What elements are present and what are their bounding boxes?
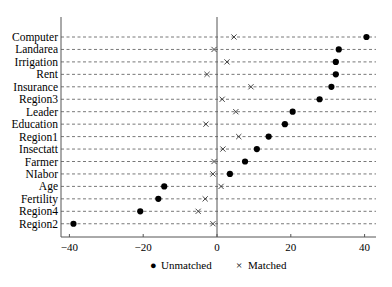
matched-point xyxy=(203,196,208,201)
unmatched-point xyxy=(333,59,339,65)
category-label: Leader xyxy=(26,106,58,118)
category-label: Insectatt xyxy=(19,143,59,155)
category-label: Farmer xyxy=(25,156,58,168)
unmatched-point xyxy=(161,183,167,189)
unmatched-point xyxy=(227,171,233,177)
category-label: Age xyxy=(39,180,58,193)
unmatched-point xyxy=(282,121,288,127)
unmatched-point xyxy=(333,71,339,77)
matched-legend-symbol: × xyxy=(236,259,242,271)
category-label: NIabor xyxy=(25,168,58,180)
unmatched-point xyxy=(336,46,342,52)
unmatched-point xyxy=(316,96,322,102)
unmatched-point xyxy=(328,84,334,90)
category-label: Fertility xyxy=(21,193,58,206)
unmatched-point xyxy=(137,208,143,214)
unmatched-legend-label: Unmatched xyxy=(161,259,212,271)
x-tick-label: 20 xyxy=(285,241,297,253)
unmatched-point xyxy=(70,221,76,227)
matched-point xyxy=(236,134,241,139)
category-label: Region1 xyxy=(19,131,58,144)
unmatched-point xyxy=(254,146,260,152)
x-tick-label: −40 xyxy=(61,241,79,253)
category-label: Insurance xyxy=(13,81,58,93)
matched-legend-label: Matched xyxy=(248,259,287,271)
x-tick-label: −20 xyxy=(135,241,153,253)
unmatched-point xyxy=(155,196,161,202)
legend: ● Unmatched × Matched xyxy=(150,259,287,271)
unmatched-point xyxy=(290,109,296,115)
category-label: Education xyxy=(11,118,58,130)
unmatched-legend-symbol: ● xyxy=(150,259,157,271)
x-tick-label: 40 xyxy=(359,241,371,253)
category-labels: ComputerLandareaIrrigationRentInsuranceR… xyxy=(11,31,58,231)
unmatched-point xyxy=(266,134,272,140)
category-label: Rent xyxy=(36,68,59,80)
dot-plot-chart: ComputerLandareaIrrigationRentInsuranceR… xyxy=(0,0,392,287)
category-label: Region3 xyxy=(19,93,58,106)
row-gridlines xyxy=(61,37,376,224)
category-label: Region2 xyxy=(19,218,58,231)
category-label: Landarea xyxy=(15,43,58,55)
category-label: Region4 xyxy=(19,205,58,218)
data-points xyxy=(70,34,369,227)
x-tick-label: 0 xyxy=(214,241,220,253)
unmatched-point xyxy=(242,158,248,164)
category-label: Computer xyxy=(12,31,58,44)
unmatched-point xyxy=(363,34,369,40)
matched-point xyxy=(220,97,225,102)
category-label: Irrigation xyxy=(15,56,59,69)
axes xyxy=(61,17,376,237)
